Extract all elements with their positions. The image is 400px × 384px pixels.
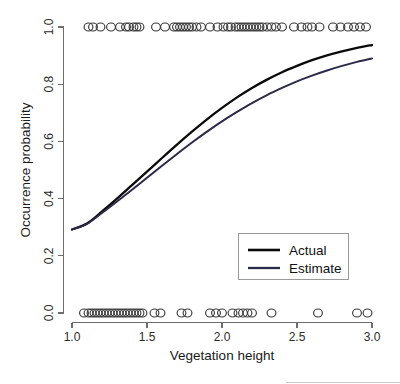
y-axis-title: Occurrence probability — [18, 102, 33, 237]
occurrence-probability-chart: 0.00.20.40.60.81.01.01.52.02.53.0 Occurr… — [0, 0, 400, 384]
y-tick-label: 0.2 — [42, 247, 56, 264]
y-tick-label: 0.6 — [42, 133, 56, 150]
chart-legend[interactable]: Actual Estimate — [239, 234, 349, 280]
x-tick-label: 2.0 — [214, 330, 231, 344]
y-tick-label: 0.0 — [42, 304, 56, 321]
x-tick-label: 3.0 — [364, 330, 381, 344]
y-tick-label: 0.4 — [42, 190, 56, 207]
legend-label-estimate: Estimate — [289, 261, 342, 276]
chart-background — [0, 0, 400, 384]
legend-label-actual: Actual — [289, 243, 327, 258]
x-axis-title: Vegetation height — [170, 348, 275, 363]
x-axis-title-text: Vegetation height — [170, 348, 275, 363]
x-tick-label: 1.0 — [64, 330, 81, 344]
y-axis-title-text: Occurrence probability — [18, 102, 33, 237]
x-tick-label: 1.5 — [139, 330, 156, 344]
y-tick-label: 1.0 — [42, 18, 56, 35]
y-tick-label: 0.8 — [42, 76, 56, 93]
x-tick-label: 2.5 — [289, 330, 306, 344]
